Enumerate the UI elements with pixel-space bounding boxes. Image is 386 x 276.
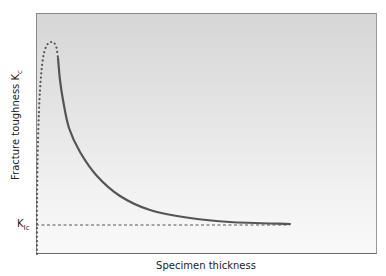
y-axis-label-main: Fracture toughness K — [10, 74, 21, 180]
fracture-toughness-chart: Fracture toughness Kc KIc Specimen thick… — [0, 0, 386, 276]
chart-curves — [0, 0, 386, 276]
solid-toughness-curve — [58, 58, 290, 224]
kic-label: KIc — [17, 218, 29, 232]
dotted-rising-curve — [37, 42, 58, 254]
y-axis-label-subscript: c — [16, 70, 24, 74]
y-axis-label: Fracture toughness Kc — [10, 70, 24, 180]
x-axis-label: Specimen thickness — [156, 260, 256, 271]
kic-label-subscript: Ic — [24, 224, 30, 232]
